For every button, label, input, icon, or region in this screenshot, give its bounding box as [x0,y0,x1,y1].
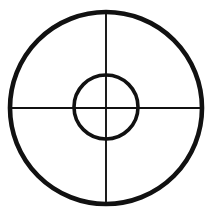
target-diagram-canvas: Crosshair target reticle [0,0,210,223]
target-svg: Crosshair target reticle [0,0,210,223]
background-rect [0,0,210,223]
